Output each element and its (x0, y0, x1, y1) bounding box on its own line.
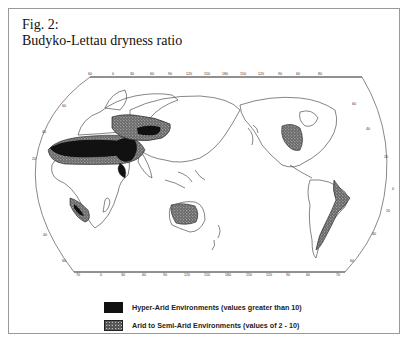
svg-text:180: 180 (225, 273, 231, 277)
svg-text:20: 20 (384, 155, 388, 159)
svg-text:0: 0 (112, 72, 114, 76)
svg-text:60: 60 (142, 273, 146, 277)
svg-text:180: 180 (222, 72, 228, 76)
svg-text:120: 120 (266, 273, 272, 277)
hyper-arid-swatch (104, 302, 123, 313)
legend-label: Hyper-Arid Environments (values greater … (132, 303, 302, 312)
svg-text:20: 20 (32, 157, 36, 161)
svg-text:40: 40 (366, 127, 370, 131)
svg-text:120: 120 (258, 72, 264, 76)
svg-text:90: 90 (278, 72, 282, 76)
svg-text:150: 150 (240, 72, 246, 76)
projection-outline (35, 77, 387, 272)
svg-text:30: 30 (121, 273, 125, 277)
hyper-arid-regions (48, 115, 170, 178)
svg-text:90: 90 (168, 72, 172, 76)
arid-swatch (104, 320, 123, 331)
svg-text:60: 60 (306, 273, 310, 277)
legend: Hyper-Arid Environments (values greater … (104, 301, 302, 337)
svg-text:90: 90 (163, 273, 167, 277)
svg-text:60: 60 (62, 259, 66, 263)
svg-text:150: 150 (204, 72, 210, 76)
svg-text:90: 90 (286, 273, 290, 277)
svg-text:20: 20 (386, 209, 390, 213)
svg-text:0: 0 (100, 273, 102, 277)
svg-text:30: 30 (130, 72, 134, 76)
world-map: 60 0 30 60 90 120 150 180 150 120 90 60 … (0, 0, 408, 344)
svg-text:150: 150 (246, 273, 252, 277)
svg-text:80: 80 (318, 72, 322, 76)
svg-text:0: 0 (392, 187, 394, 191)
svg-text:70: 70 (76, 273, 80, 277)
svg-text:120: 120 (184, 273, 190, 277)
svg-text:60: 60 (150, 72, 154, 76)
top-ticks: 60 0 30 60 90 120 150 180 150 120 90 60 … (88, 72, 322, 76)
svg-text:60: 60 (62, 104, 66, 108)
svg-text:40: 40 (43, 233, 47, 237)
svg-text:60: 60 (88, 72, 92, 76)
side-ticks: 60 40 20 40 60 60 40 20 0 20 40 60 (32, 102, 394, 263)
svg-text:120: 120 (186, 72, 192, 76)
coastlines (52, 90, 348, 258)
legend-item-arid: Arid to Semi-Arid Environments (values o… (104, 319, 302, 331)
svg-text:60: 60 (352, 102, 356, 106)
svg-text:40: 40 (372, 232, 376, 236)
svg-text:40: 40 (42, 130, 46, 134)
svg-text:60: 60 (296, 72, 300, 76)
legend-label: Arid to Semi-Arid Environments (values o… (132, 321, 299, 330)
svg-text:150: 150 (204, 273, 210, 277)
bottom-ticks: 70 0 30 60 90 120 150 180 150 120 90 60 … (76, 273, 340, 277)
legend-item-hyper-arid: Hyper-Arid Environments (values greater … (104, 301, 302, 313)
svg-text:60: 60 (350, 259, 354, 263)
svg-text:70: 70 (336, 273, 340, 277)
